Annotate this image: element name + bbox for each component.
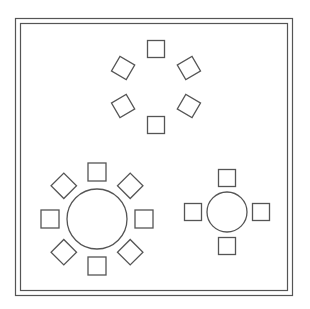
chair [117, 173, 142, 198]
chair [51, 173, 76, 198]
chair [185, 204, 202, 221]
chair [117, 239, 142, 264]
table-groups [41, 41, 270, 276]
round-table [67, 189, 127, 249]
chair [177, 94, 200, 117]
chair [88, 163, 106, 181]
chair [177, 56, 200, 79]
chair [135, 210, 153, 228]
bottom-left-group [41, 163, 153, 275]
chair [111, 56, 134, 79]
chair [148, 117, 165, 134]
chair [219, 170, 236, 187]
round-table [207, 192, 247, 232]
chair [111, 94, 134, 117]
chair [41, 210, 59, 228]
bottom-right-group [185, 170, 270, 255]
seating-diagram [0, 0, 310, 309]
chair [51, 239, 76, 264]
room-border-outer [16, 19, 293, 296]
chair [219, 238, 236, 255]
chair [253, 204, 270, 221]
top-group [111, 41, 200, 134]
chair [88, 257, 106, 275]
room-border-inner [21, 24, 288, 291]
chair [148, 41, 165, 58]
